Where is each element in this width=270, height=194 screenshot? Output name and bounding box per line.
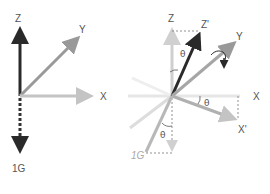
- left-axes-group: Z Y X 1G: [12, 13, 107, 174]
- theta-label-z: θ: [180, 49, 186, 59]
- right-gravity-label: 1G: [131, 150, 145, 161]
- left-z-label: Z: [15, 13, 21, 24]
- left-y-axis: [20, 40, 76, 96]
- angle-arc-g: [162, 123, 172, 126]
- right-z-label: Z: [168, 13, 174, 24]
- left-y-label: Y: [79, 24, 86, 35]
- theta-label-x: θ: [204, 98, 210, 108]
- right-x-label: X: [253, 91, 260, 102]
- theta-label-g: θ: [160, 130, 166, 140]
- right-z-prime-axis: [172, 37, 198, 96]
- right-faint-diagonal-axis: [132, 78, 172, 96]
- right-x-prime-label: X': [238, 124, 247, 135]
- left-x-label: X: [100, 91, 107, 102]
- right-axes-group: Z Z' Y X X' 1G θ θ θ: [128, 13, 260, 161]
- right-z-prime-label: Z': [201, 19, 209, 30]
- left-gravity-label: 1G: [12, 163, 26, 174]
- right-x-prime-axis: [172, 96, 232, 118]
- right-y-label: Y: [236, 31, 243, 42]
- accelerometer-diagram: Z Y X 1G Z: [0, 0, 270, 194]
